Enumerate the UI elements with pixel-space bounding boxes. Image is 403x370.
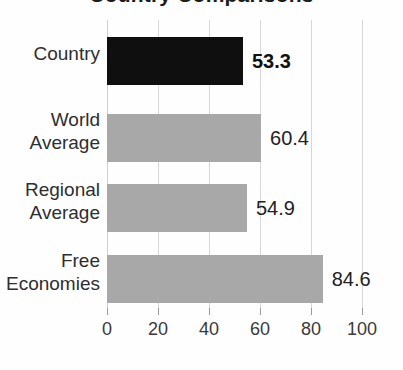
tick-mark-40 bbox=[209, 308, 210, 315]
tick-label-40: 40 bbox=[199, 319, 219, 340]
chart-title: Country Comparisons bbox=[0, 0, 403, 7]
bar-free-economies[interactable] bbox=[107, 255, 323, 303]
tick-label-100: 100 bbox=[347, 319, 377, 340]
tick-label-20: 20 bbox=[148, 319, 168, 340]
tick-label-80: 80 bbox=[301, 319, 321, 340]
category-label-line2: Average bbox=[0, 201, 100, 224]
tick-mark-20 bbox=[158, 308, 159, 315]
category-label-line1: Regional bbox=[0, 178, 100, 201]
bar-country[interactable] bbox=[107, 37, 243, 85]
tick-mark-80 bbox=[311, 308, 312, 315]
category-label-regional-average: Regional Average bbox=[0, 178, 100, 224]
bar-regional-average[interactable] bbox=[107, 184, 247, 232]
tick-label-60: 60 bbox=[250, 319, 270, 340]
tick-mark-0 bbox=[107, 308, 108, 315]
category-label-line1: World bbox=[0, 108, 100, 131]
value-label-world-average: 60.4 bbox=[270, 114, 309, 162]
tick-mark-100 bbox=[362, 308, 363, 315]
category-label-line1: Free bbox=[0, 249, 100, 272]
tick-label-0: 0 bbox=[102, 319, 112, 340]
category-label-country: Country bbox=[0, 42, 100, 65]
value-label-regional-average: 54.9 bbox=[256, 184, 295, 232]
plot-area: 0 20 40 60 80 100 53.3 60.4 54.9 84.6 bbox=[107, 20, 362, 308]
value-label-free-economies: 84.6 bbox=[332, 255, 371, 303]
tick-mark-60 bbox=[260, 308, 261, 315]
category-label-line2: Average bbox=[0, 131, 100, 154]
category-label-world-average: World Average bbox=[0, 108, 100, 154]
value-label-country: 53.3 bbox=[252, 37, 291, 85]
category-label-line2: Economies bbox=[0, 272, 100, 295]
category-label-free-economies: Free Economies bbox=[0, 249, 100, 295]
bar-world-average[interactable] bbox=[107, 114, 261, 162]
category-label-line1: Country bbox=[0, 42, 100, 65]
